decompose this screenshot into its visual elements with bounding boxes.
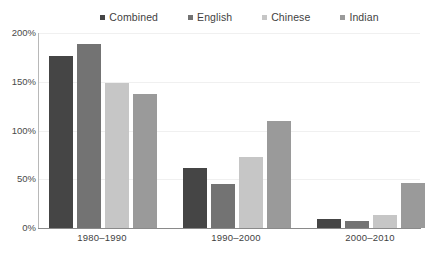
bar-indian-0[interactable] xyxy=(133,94,157,228)
bar-english-0[interactable] xyxy=(77,44,101,228)
x-axis-ticks: 1980–19901990–20002000–2010 xyxy=(38,232,421,248)
legend-item-indian[interactable]: Indian xyxy=(340,11,378,23)
y-tick-label: 200% xyxy=(2,28,36,38)
y-tick-label: 50% xyxy=(2,174,36,184)
bar-combined-2[interactable] xyxy=(317,219,341,228)
bar-series-layer xyxy=(39,33,420,228)
bar-group-2000-2010 xyxy=(317,33,425,228)
bar-english-2[interactable] xyxy=(345,221,369,228)
bar-group-1980-1990 xyxy=(49,33,157,228)
x-tick-label: 2000–2010 xyxy=(304,232,436,244)
square-marker-icon xyxy=(262,15,267,20)
y-tick-label: 150% xyxy=(2,77,36,87)
bar-group-1990-2000 xyxy=(183,33,291,228)
square-marker-icon xyxy=(340,15,345,20)
legend-item-english[interactable]: English xyxy=(188,11,232,23)
bar-chinese-1[interactable] xyxy=(239,157,263,228)
chart-legend: CombinedEnglishChineseIndian xyxy=(0,9,443,25)
legend-item-label: Indian xyxy=(349,11,378,23)
bar-indian-2[interactable] xyxy=(401,183,425,228)
legend-item-label: Combined xyxy=(109,11,158,23)
bar-chinese-2[interactable] xyxy=(373,215,397,228)
bar-indian-1[interactable] xyxy=(267,121,291,228)
legend-item-label: English xyxy=(197,11,232,23)
x-tick-label: 1990–2000 xyxy=(170,232,302,244)
square-marker-icon xyxy=(100,15,105,20)
y-axis-ticks: 0%50%100%150%200% xyxy=(0,33,36,229)
y-tick-label: 0% xyxy=(2,223,36,233)
bar-combined-0[interactable] xyxy=(49,56,73,228)
bar-combined-1[interactable] xyxy=(183,168,207,228)
square-marker-icon xyxy=(188,15,193,20)
y-tick-label: 100% xyxy=(2,126,36,136)
bar-english-1[interactable] xyxy=(211,184,235,228)
x-axis-line xyxy=(38,228,421,229)
legend-item-label: Chinese xyxy=(271,11,310,23)
x-tick-label: 1980–1990 xyxy=(36,232,168,244)
legend-item-combined[interactable]: Combined xyxy=(100,11,158,23)
bar-chart: CombinedEnglishChineseIndian 0%50%100%15… xyxy=(0,0,443,257)
legend-item-chinese[interactable]: Chinese xyxy=(262,11,310,23)
bar-chinese-0[interactable] xyxy=(105,83,129,228)
